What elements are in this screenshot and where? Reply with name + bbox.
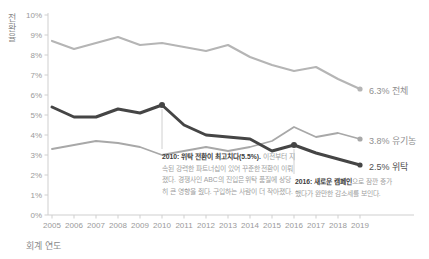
chart-canvas: 0%1%2%3%4%5%6%7%8%9%10%20052006200720082… bbox=[0, 0, 429, 259]
y-tick-label: 1% bbox=[30, 191, 42, 200]
x-tick-label: 2006 bbox=[65, 221, 83, 230]
x-tick-label: 2017 bbox=[307, 221, 325, 230]
annotation-2010-lead: 2010: 위탁 전환이 최고치다(5.5%). bbox=[162, 153, 261, 160]
y-tick-label: 2% bbox=[30, 171, 42, 180]
x-tick-label: 2008 bbox=[109, 221, 127, 230]
annotation-2016: 2016: 새로운 캠페인으로 잠깐 증가했다가 완만한 감소세를 보인다. bbox=[295, 176, 392, 199]
x-tick-label: 2018 bbox=[329, 221, 347, 230]
annotation-2010: 2010: 위탁 전환이 최고치다(5.5%). 이전부터 지속된 강력한 파트… bbox=[162, 151, 297, 197]
x-tick-label: 2009 bbox=[131, 221, 149, 230]
x-tick-label: 2012 bbox=[197, 221, 215, 230]
series-end-label-total: 6.3% 전체 bbox=[369, 84, 408, 97]
x-tick-label: 2019 bbox=[351, 221, 369, 230]
x-tick-label: 2013 bbox=[219, 221, 237, 230]
series-end-dot bbox=[357, 86, 362, 91]
y-axis-title: 전환율 bbox=[5, 13, 18, 43]
x-tick-label: 2007 bbox=[87, 221, 105, 230]
y-tick-label: 9% bbox=[30, 31, 42, 40]
event-marker-dot bbox=[159, 102, 165, 108]
x-axis-title: 회계 연도 bbox=[26, 239, 61, 252]
y-tick-label: 8% bbox=[30, 51, 42, 60]
series-end-label-organic: 3.8% 유기농 bbox=[369, 134, 416, 147]
series-line-전체 bbox=[52, 37, 360, 89]
x-tick-label: 2015 bbox=[263, 221, 281, 230]
x-tick-label: 2016 bbox=[285, 221, 303, 230]
x-tick-label: 2014 bbox=[241, 221, 259, 230]
y-tick-label: 7% bbox=[30, 71, 42, 80]
series-end-label-consignment: 2.5% 위탁 bbox=[369, 160, 408, 173]
x-tick-label: 2010 bbox=[153, 221, 171, 230]
x-tick-label: 2005 bbox=[43, 221, 61, 230]
conversion-rate-line-chart: 0%1%2%3%4%5%6%7%8%9%10%20052006200720082… bbox=[0, 0, 429, 259]
y-tick-label: 5% bbox=[30, 111, 42, 120]
event-marker-dot bbox=[291, 142, 297, 148]
x-tick-label: 2011 bbox=[175, 221, 193, 230]
series-end-dot bbox=[357, 136, 362, 141]
y-tick-label: 3% bbox=[30, 151, 42, 160]
annotation-2016-lead: 2016: 새로운 캠페인 bbox=[295, 178, 352, 185]
y-tick-label: 4% bbox=[30, 131, 42, 140]
y-tick-label: 10% bbox=[26, 11, 42, 20]
series-end-dot bbox=[357, 162, 362, 167]
y-tick-label: 0% bbox=[30, 211, 42, 220]
y-tick-label: 6% bbox=[30, 91, 42, 100]
